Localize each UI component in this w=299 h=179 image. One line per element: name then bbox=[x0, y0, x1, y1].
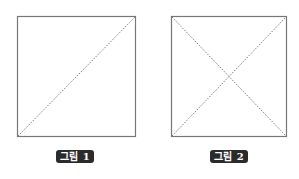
figure-1-label: 그림 1 bbox=[56, 150, 94, 163]
figure-2-label: 그림 2 bbox=[210, 150, 248, 163]
figure-1-square bbox=[0, 0, 299, 179]
figure-1-diagonal bbox=[18, 17, 135, 136]
